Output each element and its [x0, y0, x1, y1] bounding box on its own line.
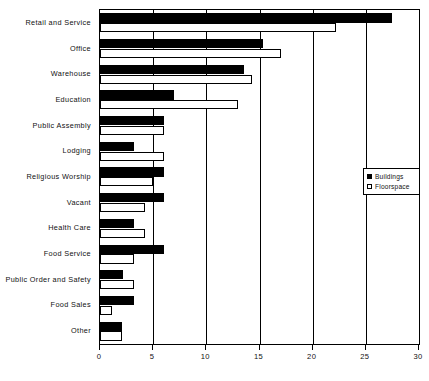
bar-buildings [100, 90, 174, 99]
bar-group [100, 10, 419, 36]
bar-floorspace [100, 152, 164, 161]
bar-floorspace [100, 229, 145, 238]
bar-floorspace [100, 23, 336, 32]
legend-swatch-hollow-icon [367, 184, 372, 189]
category-label: Warehouse [51, 69, 91, 78]
legend-label-buildings: Buildings [375, 173, 404, 180]
bar-floorspace [100, 49, 281, 58]
legend-item-floorspace: Floorspace [367, 181, 416, 191]
bar-floorspace [100, 126, 164, 135]
bar-buildings [100, 245, 164, 254]
bar-buildings [100, 219, 134, 228]
bar-buildings [100, 167, 164, 176]
legend-label-floorspace: Floorspace [375, 183, 410, 190]
bar-buildings [100, 193, 164, 202]
bar-buildings [100, 322, 122, 331]
x-tick-label-10: 10 [201, 352, 210, 361]
x-axis-tick-labels: 051015202530 [0, 348, 429, 368]
category-label: Public Order and Safety [5, 275, 91, 284]
x-tick-label-15: 15 [254, 352, 263, 361]
x-tick-label-20: 20 [307, 352, 316, 361]
category-axis-labels: Retail and ServiceOfficeWarehouseEducati… [0, 0, 95, 345]
bar-group [100, 241, 419, 267]
category-label: Office [70, 44, 91, 53]
legend-item-buildings: Buildings [367, 171, 416, 181]
x-tick-label-5: 5 [150, 352, 155, 361]
category-label: Other [71, 326, 91, 335]
bar-buildings [100, 116, 164, 125]
bar-group [100, 267, 419, 293]
chart-legend: Buildings Floorspace [363, 168, 420, 195]
category-label: Retail and Service [25, 18, 91, 27]
bar-floorspace [100, 75, 252, 84]
bar-group [100, 87, 419, 113]
bar-buildings [100, 142, 134, 151]
bar-buildings [100, 13, 392, 22]
category-label: Education [55, 95, 91, 104]
x-tick-label-30: 30 [413, 352, 422, 361]
bar-group [100, 61, 419, 87]
bar-group [100, 318, 419, 344]
bar-chart: Retail and ServiceOfficeWarehouseEducati… [0, 0, 429, 381]
bar-group [100, 293, 419, 319]
category-label: Food Sales [51, 300, 91, 309]
category-label: Lodging [63, 146, 91, 155]
bar-floorspace [100, 331, 122, 340]
bar-buildings [100, 39, 263, 48]
bar-buildings [100, 270, 123, 279]
bar-group [100, 216, 419, 242]
bar-floorspace [100, 203, 145, 212]
category-label: Religious Worship [26, 172, 91, 181]
bar-group [100, 113, 419, 139]
bar-group [100, 36, 419, 62]
bar-floorspace [100, 177, 153, 186]
bar-floorspace [100, 254, 134, 263]
bar-buildings [100, 296, 134, 305]
legend-swatch-filled-icon [367, 174, 372, 179]
bar-group [100, 138, 419, 164]
bar-buildings [100, 65, 244, 74]
bar-floorspace [100, 306, 112, 315]
bar-floorspace [100, 280, 134, 289]
category-label: Public Assembly [33, 121, 91, 130]
category-label: Vacant [67, 198, 91, 207]
bar-floorspace [100, 100, 238, 109]
x-tick-label-25: 25 [360, 352, 369, 361]
x-tick-label-0: 0 [97, 352, 102, 361]
category-label: Food Service [44, 249, 91, 258]
category-label: Health Care [48, 223, 91, 232]
